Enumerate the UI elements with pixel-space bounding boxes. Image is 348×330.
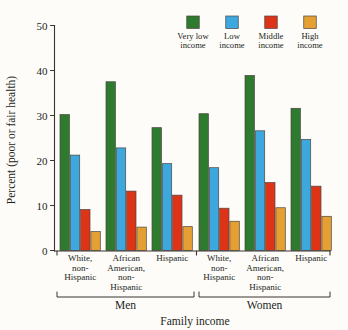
legend-swatch <box>226 16 239 29</box>
bar <box>81 210 90 251</box>
category-label-line: non- <box>257 272 274 282</box>
category-label-line: African <box>112 253 140 263</box>
supergroup-label: Men <box>115 299 136 311</box>
supergroup-bracket <box>199 292 330 297</box>
y-axis-title: Percent (poor or fair health) <box>5 76 18 205</box>
bar <box>245 75 254 250</box>
legend-label-line1: Middle <box>259 31 284 41</box>
legend-item: Highincome <box>297 16 322 50</box>
y-tick-label: 30 <box>37 110 49 122</box>
legend-swatch <box>187 16 200 29</box>
bars-layer <box>60 75 331 250</box>
bar <box>322 216 331 250</box>
bar-group <box>152 128 192 251</box>
category-label-line: Hispanic <box>203 272 235 282</box>
bar-group <box>245 75 285 250</box>
bar <box>301 139 310 250</box>
legend-label-line2: income <box>180 40 205 50</box>
bar-group <box>60 115 100 251</box>
category-label-line: White, <box>207 253 231 263</box>
supergroup-label: Women <box>247 299 283 311</box>
category-label-line: African <box>251 253 279 263</box>
bar <box>266 183 275 251</box>
category-label-line: American, <box>246 263 284 273</box>
category-label: Hispanic <box>295 253 327 263</box>
category-label: AfricanAmerican,non-Hispanic <box>107 253 145 292</box>
category-label-line: Hispanic <box>64 272 96 282</box>
legend-label-line1: High <box>301 31 319 41</box>
bar-group <box>106 82 146 251</box>
legend-label-line2: income <box>297 40 322 50</box>
category-label-line: Hispanic <box>295 253 327 263</box>
bar <box>116 148 125 251</box>
legend-swatch <box>304 16 317 29</box>
category-label-line: non- <box>211 263 228 273</box>
supergroup-brackets <box>57 292 330 297</box>
bar <box>91 232 100 251</box>
legend-swatch <box>265 16 278 29</box>
bar <box>276 208 285 251</box>
bar-chart: 01020304050 Percent (poor or fair health… <box>0 0 348 330</box>
supergroup-labels: MenWomen <box>115 299 283 311</box>
legend-label-line1: Low <box>224 31 241 41</box>
category-label: AfricanAmerican,non-Hispanic <box>246 253 284 292</box>
bar <box>291 108 300 250</box>
y-tick-label: 50 <box>37 20 49 32</box>
bar <box>183 227 192 251</box>
y-axis: 01020304050 <box>37 20 55 257</box>
bar-group <box>199 114 239 251</box>
bar <box>162 164 171 251</box>
bar <box>230 221 239 250</box>
bar <box>137 227 146 250</box>
legend-label-line2: income <box>219 40 244 50</box>
bar <box>152 128 161 251</box>
bar <box>220 208 229 250</box>
bar <box>127 191 136 250</box>
legend-item: Lowincome <box>219 16 244 50</box>
legend-item: Very lowincome <box>177 16 209 50</box>
category-label: White,non-Hispanic <box>64 253 96 282</box>
x-axis <box>55 251 331 255</box>
y-tick-label: 10 <box>37 200 49 212</box>
bar <box>106 82 115 251</box>
x-axis-title: Family income <box>160 315 229 328</box>
x-axis-title-text: Family income <box>160 315 229 328</box>
supergroup-bracket <box>57 292 194 297</box>
y-tick-label: 40 <box>37 65 49 77</box>
y-tick-label: 0 <box>42 245 48 257</box>
bar <box>199 114 208 251</box>
chart-container: 01020304050 Percent (poor or fair health… <box>0 0 348 330</box>
category-label-line: non- <box>72 263 89 273</box>
category-label-line: Hispanic <box>110 282 142 292</box>
category-label-line: non- <box>118 272 135 282</box>
y-axis-title-text: Percent (poor or fair health) <box>5 76 18 205</box>
bar <box>255 131 264 251</box>
category-label-line: American, <box>107 263 145 273</box>
legend-label-line2: income <box>258 40 283 50</box>
bar <box>70 155 79 250</box>
category-label: White,non-Hispanic <box>203 253 235 282</box>
legend-item: Middleincome <box>258 16 283 50</box>
category-labels: White,non-HispanicAfricanAmerican,non-Hi… <box>64 253 327 292</box>
bar <box>60 115 69 251</box>
category-label-line: Hispanic <box>249 282 281 292</box>
category-label-line: White, <box>68 253 92 263</box>
bar-group <box>291 108 331 250</box>
bar <box>312 186 321 250</box>
category-label: Hispanic <box>156 253 188 263</box>
bar <box>173 195 182 250</box>
bar <box>209 168 218 251</box>
chart-legend: Very lowincomeLowincomeMiddleincomeHighi… <box>177 16 322 50</box>
legend-label-line1: Very low <box>177 31 209 41</box>
y-tick-label: 20 <box>37 155 49 167</box>
category-label-line: Hispanic <box>156 253 188 263</box>
